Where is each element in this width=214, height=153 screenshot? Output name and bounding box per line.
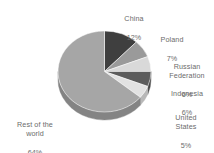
pie-label-russian-federation-name: Russian Federation [160, 62, 214, 80]
pie-label-china-name: China [109, 14, 159, 23]
pie-label-poland-name: Poland [147, 35, 197, 44]
pie-label-rest-of-the-world-name: Rest of the world [4, 120, 66, 138]
pie-chart-screenshot: China 12% Poland 7% Russian Federation 6… [0, 0, 214, 153]
pie-label-rest-of-the-world-value: 64% [4, 148, 66, 153]
pie-label-indonesia-name: Indonesia [160, 89, 214, 98]
pie-label-united-states: United States 5% [160, 104, 212, 153]
pie-label-united-states-value: 5% [160, 141, 212, 150]
pie-label-rest-of-the-world: Rest of the world 64% [4, 111, 66, 153]
pie-label-united-states-name: United States [160, 113, 212, 131]
